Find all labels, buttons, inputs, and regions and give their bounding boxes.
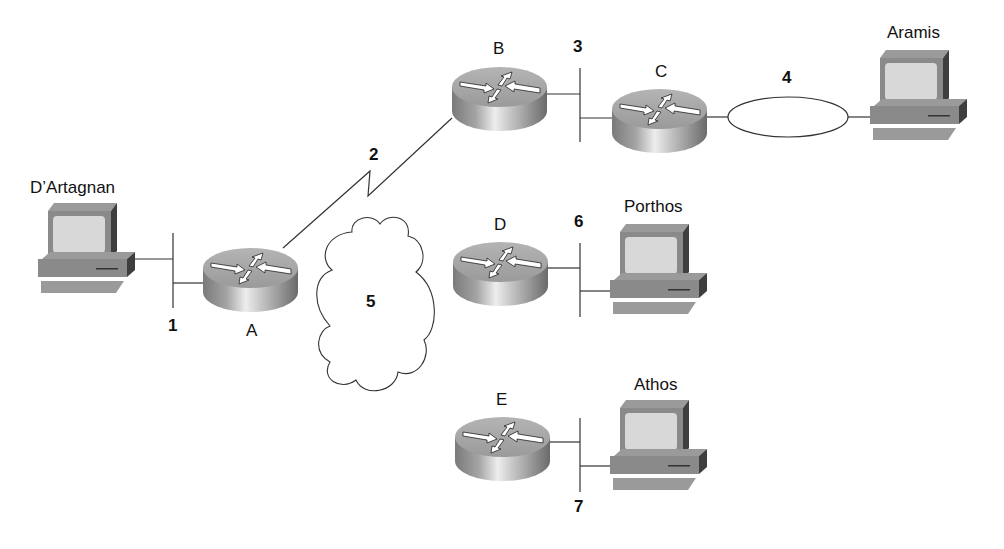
router-c-icon[interactable] — [612, 89, 707, 153]
athos-pc-icon[interactable] — [610, 400, 707, 490]
dartagnan-pc-icon[interactable] — [38, 203, 135, 293]
router-label-d: D — [494, 216, 506, 233]
segment-label-1: 1 — [168, 317, 177, 334]
segment-4-ring — [728, 97, 848, 137]
router-label-e: E — [496, 391, 507, 408]
network-diagram: D’Artagnan Aramis Porthos Athos A B C D … — [0, 0, 1004, 549]
router-a-icon[interactable] — [203, 248, 298, 312]
router-e-icon[interactable] — [455, 417, 550, 481]
segment-label-6: 6 — [574, 213, 583, 230]
router-label-c: C — [655, 63, 667, 80]
segment-label-7: 7 — [574, 498, 583, 515]
host-label-dartagnan: D’Artagnan — [30, 179, 115, 196]
segment-label-2: 2 — [369, 146, 378, 163]
router-b-icon[interactable] — [452, 67, 547, 131]
segment-5-cloud — [317, 217, 435, 390]
segment-label-4: 4 — [782, 69, 791, 86]
router-label-a: A — [246, 322, 257, 339]
host-label-aramis: Aramis — [887, 24, 940, 41]
segment-2-serial — [283, 118, 452, 248]
host-label-porthos: Porthos — [624, 198, 683, 215]
diagram-canvas — [0, 0, 1004, 549]
segment-label-5: 5 — [366, 293, 375, 310]
host-label-athos: Athos — [634, 376, 677, 393]
aramis-pc-icon[interactable] — [870, 50, 967, 140]
porthos-pc-icon[interactable] — [610, 224, 707, 314]
segment-label-3: 3 — [573, 38, 582, 55]
router-label-b: B — [493, 40, 504, 57]
router-d-icon[interactable] — [453, 242, 548, 306]
